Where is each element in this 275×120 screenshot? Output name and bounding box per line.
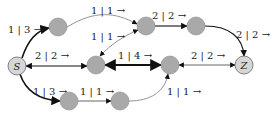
node-s: S <box>8 57 26 75</box>
node-label-z: Z <box>240 60 249 71</box>
edge-label-s-a: 1 | 3 → <box>8 24 43 36</box>
node-c <box>187 17 205 35</box>
node-l2 <box>111 92 129 110</box>
node-a <box>49 18 67 36</box>
edge-label-l2-m2: 1 | 1 → <box>167 86 202 98</box>
node-m2 <box>161 56 179 74</box>
edge-label-l1-l2: 1 | 1 → <box>80 86 115 98</box>
node-m1 <box>87 56 105 74</box>
edge-a-b <box>67 15 137 27</box>
edge-l2-m2 <box>129 74 168 101</box>
node-l1 <box>60 92 78 110</box>
edge-label-m1-b: 1 | 1 → <box>91 31 126 43</box>
node-b <box>137 17 155 35</box>
node-z: Z <box>235 56 253 74</box>
edge-label-m1-s: 2 | 2 → <box>35 50 70 62</box>
edge-label-m1-m2: 1 | 4 → <box>118 50 153 62</box>
edge-label-a-b: 1 | 1 → <box>91 5 126 17</box>
edge-label-z-m2: 2 | 2 → <box>191 50 226 62</box>
edge-label-c-z: 2 | 2 → <box>236 29 271 41</box>
flow-network-diagram: 1 | 3 → 1 | 1 → 2 | 2 → 2 | 2 → 1 | 1 → … <box>0 0 275 120</box>
node-label-s: S <box>14 61 21 72</box>
diagram-canvas: 1 | 3 → 1 | 1 → 2 | 2 → 2 | 2 → 1 | 1 → … <box>0 0 275 120</box>
edge-label-b-c: 2 | 2 → <box>152 10 187 22</box>
